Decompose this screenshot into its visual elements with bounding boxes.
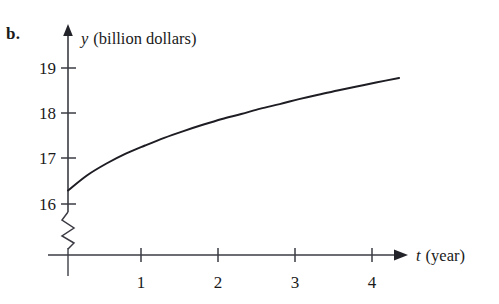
x-axis-arrow-icon (394, 250, 408, 261)
x-tick-label-4: 4 (368, 273, 377, 292)
y-tick-label-17: 17 (39, 149, 57, 168)
y-axis-break-icon (62, 212, 74, 249)
x-axis-title-variable: t (416, 246, 421, 265)
y-axis-group (62, 24, 74, 276)
x-axis-group (48, 250, 408, 261)
x-tick-label-1: 1 (137, 273, 146, 292)
y-tick-label-19: 19 (39, 59, 56, 78)
line-chart: 19 18 17 16 1 2 3 4 y(billion dollars) t… (0, 0, 499, 304)
x-tick-label-3: 3 (291, 273, 300, 292)
y-tick-label-16: 16 (39, 195, 56, 214)
x-tick-label-2: 2 (214, 273, 223, 292)
y-axis-title-unit: (billion dollars) (93, 29, 196, 48)
y-axis-title-variable: y (79, 29, 89, 48)
figure-panel: b. 19 18 17 16 (0, 0, 499, 304)
data-curve-line (68, 78, 399, 191)
y-axis-arrow-icon (63, 24, 73, 36)
y-axis-title: y(billion dollars) (79, 29, 196, 48)
x-axis-title: t(year) (416, 246, 465, 265)
y-tick-labels: 19 18 17 16 (39, 59, 57, 214)
x-tick-labels: 1 2 3 4 (137, 273, 377, 292)
y-tick-label-18: 18 (39, 104, 56, 123)
x-axis-title-unit: (year) (426, 246, 465, 265)
